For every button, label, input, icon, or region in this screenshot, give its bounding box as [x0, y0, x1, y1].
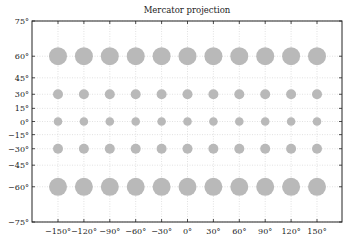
- data-point-circle: [260, 89, 270, 99]
- data-point-circle: [256, 178, 274, 196]
- data-point-circle: [157, 144, 167, 154]
- data-point-circle: [208, 144, 218, 154]
- data-point-circle: [80, 117, 89, 126]
- y-tick-label: −30°: [8, 145, 29, 154]
- data-point-circle: [234, 89, 244, 99]
- data-point-circle: [286, 144, 296, 154]
- data-point-circle: [204, 47, 222, 65]
- data-point-circle: [157, 117, 166, 126]
- data-point-circle: [127, 178, 145, 196]
- y-tick-label: 0°: [20, 118, 29, 127]
- data-point-circle: [312, 89, 322, 99]
- y-tick-label: 75°: [15, 17, 29, 26]
- data-point-circle: [183, 117, 192, 126]
- y-tick-label: 45°: [15, 74, 29, 83]
- data-point-circle: [230, 47, 248, 65]
- y-tick-label: −15°: [8, 131, 29, 140]
- x-tick-label: −30°: [151, 227, 172, 236]
- data-point-circle: [75, 47, 93, 65]
- data-point-circle: [105, 89, 115, 99]
- data-point-circle: [312, 144, 322, 154]
- data-point-circle: [230, 178, 248, 196]
- data-point-circle: [183, 89, 193, 99]
- data-point-circle: [75, 178, 93, 196]
- data-point-circle: [153, 47, 171, 65]
- x-tick-label: −150°: [45, 227, 71, 236]
- x-tick-label: 150°: [307, 227, 326, 236]
- data-point-circle: [235, 117, 244, 126]
- data-point-circle: [101, 178, 119, 196]
- data-point-circle: [256, 47, 274, 65]
- data-point-circle: [308, 178, 326, 196]
- data-point-circle: [282, 47, 300, 65]
- data-point-circle: [209, 117, 218, 126]
- data-point-circle: [286, 89, 296, 99]
- data-point-circle: [49, 47, 67, 65]
- data-point-circle: [101, 47, 119, 65]
- x-tick-label: −120°: [71, 227, 97, 236]
- data-point-circle: [79, 144, 89, 154]
- y-tick-label: −45°: [8, 161, 29, 170]
- mercator-chart: Mercator projection 75°60°45°30°15°0°−15…: [0, 0, 349, 239]
- data-point-circle: [234, 144, 244, 154]
- data-point-circle: [106, 117, 115, 126]
- data-point-circle: [282, 178, 300, 196]
- x-tick-label: 60°: [232, 227, 246, 236]
- data-point-circle: [79, 89, 89, 99]
- y-tick-label: 30°: [15, 90, 29, 99]
- chart-title: Mercator projection: [144, 5, 231, 15]
- data-point-circle: [287, 117, 296, 126]
- data-point-circle: [179, 178, 197, 196]
- y-tick-label: 15°: [15, 104, 29, 113]
- data-point-circle: [204, 178, 222, 196]
- data-point-circle: [49, 178, 67, 196]
- data-point-circle: [260, 144, 270, 154]
- tissot-markers: [49, 47, 326, 196]
- data-point-circle: [53, 144, 63, 154]
- data-point-circle: [157, 89, 167, 99]
- data-point-circle: [183, 144, 193, 154]
- data-point-circle: [127, 47, 145, 65]
- x-tick-label: 120°: [281, 227, 300, 236]
- x-tick-label: 30°: [206, 227, 220, 236]
- x-tick-label: 90°: [258, 227, 272, 236]
- data-point-circle: [131, 117, 140, 126]
- data-point-circle: [179, 47, 197, 65]
- y-tick-label: −60°: [8, 183, 29, 192]
- data-point-circle: [54, 117, 63, 126]
- y-tick-label: 60°: [15, 52, 29, 61]
- x-tick-label: 0°: [183, 227, 192, 236]
- data-point-circle: [53, 89, 63, 99]
- x-tick-label: −60°: [125, 227, 146, 236]
- data-point-circle: [313, 117, 322, 126]
- data-point-circle: [105, 144, 115, 154]
- data-point-circle: [153, 178, 171, 196]
- x-tick-label: −90°: [99, 227, 120, 236]
- data-point-circle: [308, 47, 326, 65]
- data-point-circle: [131, 144, 141, 154]
- data-point-circle: [208, 89, 218, 99]
- y-tick-label: −75°: [8, 218, 29, 227]
- data-point-circle: [261, 117, 270, 126]
- data-point-circle: [131, 89, 141, 99]
